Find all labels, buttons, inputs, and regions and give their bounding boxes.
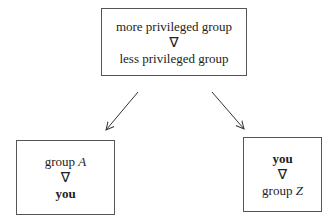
nabla-symbol-icon: ∇ [169, 35, 178, 50]
left-box-line1: group A [45, 153, 87, 170]
group-variable-z: Z [296, 183, 303, 198]
right-box-line2: group Z [262, 182, 303, 199]
nabla-symbol-icon: ∇ [61, 170, 70, 185]
top-box-line2: less privileged group [119, 50, 228, 67]
right-box-group-z: you ∇ group Z [243, 137, 322, 212]
group-variable-a: A [78, 154, 86, 169]
left-box-group-a: group A ∇ you [16, 140, 115, 215]
left-box-line1-text: group [45, 154, 79, 169]
right-box-line2-text: group [262, 183, 296, 198]
arrow-to-right-box [212, 92, 244, 129]
nabla-symbol-icon: ∇ [278, 167, 287, 182]
arrow-to-left-box [106, 92, 138, 130]
right-box-line1: you [272, 150, 292, 167]
top-box-line1: more privileged group [116, 18, 232, 35]
top-box-more-privileged: more privileged group ∇ less privileged … [101, 8, 247, 76]
left-box-line2: you [55, 185, 75, 202]
